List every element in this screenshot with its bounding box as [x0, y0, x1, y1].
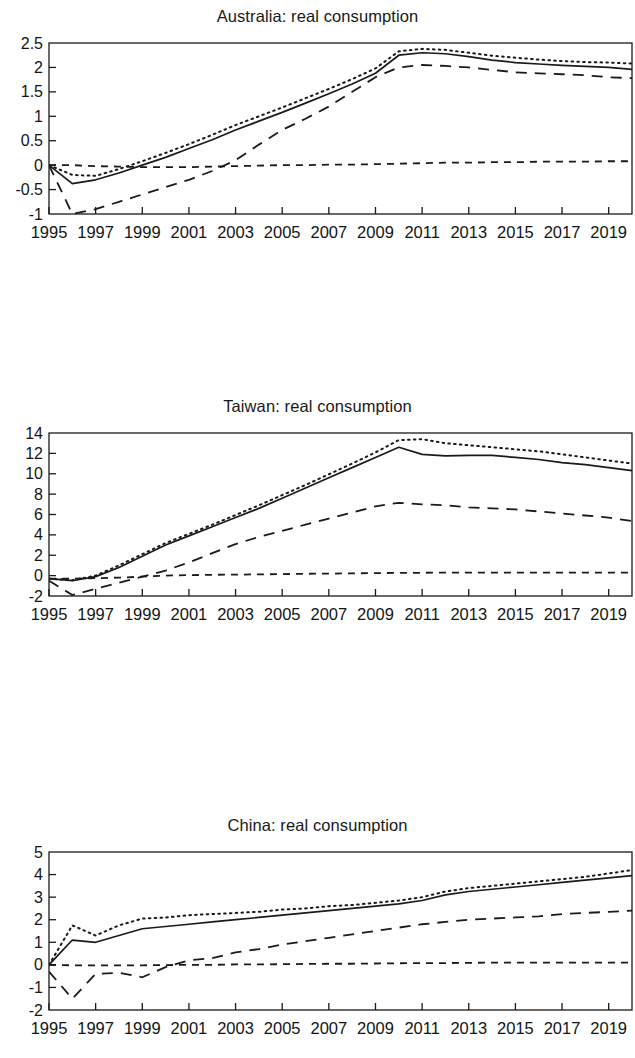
y-tick-label: -2: [29, 1001, 43, 1018]
series-short-dash: [49, 572, 632, 578]
x-tick-label: 2009: [357, 223, 394, 241]
series-dotted: [49, 48, 632, 175]
chart-china: China: real consumption -2-1012345199519…: [0, 805, 635, 1058]
y-tick-label: 0: [34, 156, 43, 173]
x-tick-label: 2005: [264, 605, 301, 623]
x-tick-label: 2003: [217, 1019, 254, 1037]
y-tick-label: 14: [25, 424, 43, 441]
x-tick-label: 1997: [77, 223, 114, 241]
y-tick-label: 2: [34, 546, 43, 563]
y-tick-label: 1: [34, 933, 43, 950]
chart-australia: Australia: real consumption -1-0.500.511…: [0, 0, 635, 270]
y-tick-label: 2: [34, 59, 43, 76]
x-tick-label: 2005: [264, 1019, 301, 1037]
x-tick-label: 1995: [31, 1019, 68, 1037]
y-tick-label: 6: [34, 506, 43, 523]
y-tick-label: 1: [34, 107, 43, 124]
x-tick-label: 2003: [217, 223, 254, 241]
x-tick-label: 1999: [124, 1019, 161, 1037]
plot-area-australia: -1-0.500.511.522.51995199719992001200320…: [0, 25, 635, 265]
x-tick-label: 2007: [310, 1019, 347, 1037]
plot-svg-china: -2-1012345199519971999200120032005200720…: [0, 834, 635, 1049]
x-tick-label: 2019: [590, 1019, 627, 1037]
x-tick-label: 2007: [310, 223, 347, 241]
x-tick-label: 2015: [497, 605, 534, 623]
x-tick-label: 1995: [31, 605, 68, 623]
y-tick-label: 2.5: [21, 34, 43, 51]
y-tick-label: 0.5: [21, 132, 43, 149]
y-tick-label: 0: [34, 567, 43, 584]
x-tick-label: 2009: [357, 1019, 394, 1037]
plot-area-taiwan: -202468101214199519971999200120032005200…: [0, 415, 635, 645]
chart-title-australia: Australia: real consumption: [0, 0, 635, 25]
x-tick-label: 2007: [310, 605, 347, 623]
x-tick-label: 2013: [450, 223, 487, 241]
y-tick-label: 4: [34, 526, 43, 543]
x-tick-label: 2013: [450, 1019, 487, 1037]
chart-taiwan: Taiwan: real consumption -20246810121419…: [0, 385, 635, 655]
x-tick-label: 2017: [544, 605, 581, 623]
y-tick-label: 8: [34, 485, 43, 502]
plot-svg-australia: -1-0.500.511.522.51995199719992001200320…: [0, 25, 635, 265]
y-tick-label: -0.5: [15, 181, 43, 198]
x-tick-label: 2019: [590, 223, 627, 241]
y-tick-label: 12: [25, 444, 43, 461]
y-tick-label: 1.5: [21, 83, 43, 100]
x-tick-label: 2019: [590, 605, 627, 623]
x-tick-label: 2011: [404, 223, 439, 241]
y-tick-label: 2: [34, 911, 43, 928]
y-tick-label: -2: [29, 587, 43, 604]
x-tick-label: 2017: [544, 1019, 581, 1037]
x-tick-label: 1997: [77, 1019, 114, 1037]
series-long-dash: [49, 502, 632, 594]
y-tick-label: 3: [34, 888, 43, 905]
x-tick-label: 2005: [264, 223, 301, 241]
x-tick-label: 2015: [497, 223, 534, 241]
x-tick-label: 2009: [357, 605, 394, 623]
x-tick-label: 1999: [124, 223, 161, 241]
y-tick-label: 10: [25, 465, 43, 482]
y-tick-label: 0: [34, 956, 43, 973]
x-tick-label: 2015: [497, 1019, 534, 1037]
chart-title-taiwan: Taiwan: real consumption: [0, 385, 635, 415]
x-tick-label: 1999: [124, 605, 161, 623]
y-tick-label: -1: [29, 979, 43, 996]
series-solid: [49, 875, 632, 964]
x-tick-label: 1997: [77, 605, 114, 623]
plot-svg-taiwan: -202468101214199519971999200120032005200…: [0, 415, 635, 645]
y-tick-label: -1: [29, 205, 43, 222]
x-tick-label: 2001: [171, 1019, 208, 1037]
series-short-dash: [49, 962, 632, 965]
plot-area-china: -2-1012345199519971999200120032005200720…: [0, 834, 635, 1049]
series-long-dash: [49, 64, 632, 213]
x-tick-label: 2017: [544, 223, 581, 241]
plot-frame: [49, 433, 632, 596]
series-long-dash: [49, 910, 632, 998]
chart-title-china: China: real consumption: [0, 805, 635, 834]
x-tick-label: 1995: [31, 223, 68, 241]
x-tick-label: 2013: [450, 605, 487, 623]
y-tick-label: 4: [34, 866, 43, 883]
series-solid: [49, 447, 632, 580]
x-tick-label: 2001: [171, 223, 208, 241]
x-tick-label: 2001: [171, 605, 208, 623]
plot-frame: [49, 43, 632, 214]
x-tick-label: 2003: [217, 605, 254, 623]
x-tick-label: 2011: [404, 605, 439, 623]
y-tick-label: 5: [34, 843, 43, 860]
x-tick-label: 2011: [404, 1019, 439, 1037]
